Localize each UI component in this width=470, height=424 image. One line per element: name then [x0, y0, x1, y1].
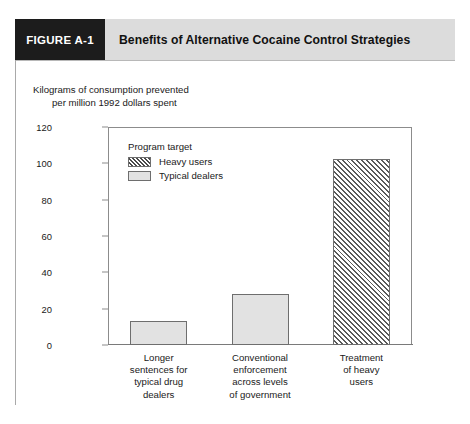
x-axis-category-line: Conventional: [209, 352, 310, 364]
x-axis-category-label: Longersentences fortypical drugdealers: [108, 352, 209, 401]
legend-swatch-hatch: [128, 157, 151, 167]
y-axis-tick-text: 60: [42, 231, 58, 242]
legend: Program target Heavy usersTypical dealer…: [128, 141, 223, 184]
x-axis-category-line: dealers: [108, 389, 209, 401]
legend-entries: Heavy usersTypical dealers: [128, 156, 223, 182]
y-axis-tick-label: 20: [0, 303, 58, 314]
y-axis-tick-label: 60: [0, 231, 58, 242]
y-axis-tick-label: 100: [0, 158, 58, 169]
y-axis-tick-mark: [102, 236, 108, 237]
figure-page: FIGURE A-1 Benefits of Alternative Cocai…: [0, 0, 470, 424]
y-axis-tick-mark: [102, 127, 108, 128]
y-axis-tick-text: 0: [47, 340, 58, 351]
legend-swatch-solid: [128, 171, 151, 181]
x-axis-category-line: users: [311, 376, 412, 388]
x-axis-category-line: of government: [209, 389, 310, 401]
y-axis-tick-text: 40: [42, 267, 58, 278]
y-axis-tick-text: 100: [36, 158, 58, 169]
figure-title: Benefits of Alternative Cocaine Control …: [105, 19, 455, 60]
x-axis-category-line: of heavy: [311, 364, 412, 376]
y-axis-tick-label: 80: [0, 194, 58, 205]
x-axis-category-line: typical drug: [108, 376, 209, 388]
y-axis-tick-label: 40: [0, 267, 58, 278]
y-axis-caption: Kilograms of consumption prevented per m…: [33, 84, 273, 109]
legend-title: Program target: [128, 141, 223, 153]
y-axis-tick-text: 120: [36, 122, 58, 133]
y-axis-tick-mark: [102, 345, 108, 346]
header-divider: [15, 60, 455, 61]
x-axis-category-label: Treatmentof heavyusers: [311, 352, 412, 389]
legend-entry-2: Typical dealers: [128, 170, 223, 182]
y-axis-tick-text: 80: [42, 194, 58, 205]
x-axis-category-line: sentences for: [108, 364, 209, 376]
y-axis-tick-mark: [102, 308, 108, 309]
y-axis-caption-line-1: Kilograms of consumption prevented: [33, 84, 273, 97]
y-axis-caption-line-2: per million 1992 dollars spent: [33, 97, 273, 110]
y-axis-tick-mark: [102, 272, 108, 273]
x-axis-category-label: Conventionalenforcementacross levelsof g…: [209, 352, 310, 401]
y-axis-tick-label: 120: [0, 122, 58, 133]
figure-number-label: FIGURE A-1: [15, 19, 105, 60]
x-axis-category-line: enforcement: [209, 364, 310, 376]
bar-3: [333, 159, 390, 345]
legend-entry-label: Heavy users: [159, 156, 212, 168]
x-axis-category-line: Longer: [108, 352, 209, 364]
bar-1: [130, 321, 187, 345]
figure-header: FIGURE A-1 Benefits of Alternative Cocai…: [15, 19, 455, 60]
x-axis-category-line: Treatment: [311, 352, 412, 364]
legend-entry-1: Heavy users: [128, 156, 223, 168]
y-axis-tick-text: 20: [42, 303, 58, 314]
bar-2: [232, 294, 289, 345]
legend-entry-label: Typical dealers: [159, 170, 223, 182]
y-axis-tick-label: 0: [0, 340, 58, 351]
y-axis-tick-mark: [102, 199, 108, 200]
x-axis-category-line: across levels: [209, 376, 310, 388]
y-axis-tick-mark: [102, 163, 108, 164]
